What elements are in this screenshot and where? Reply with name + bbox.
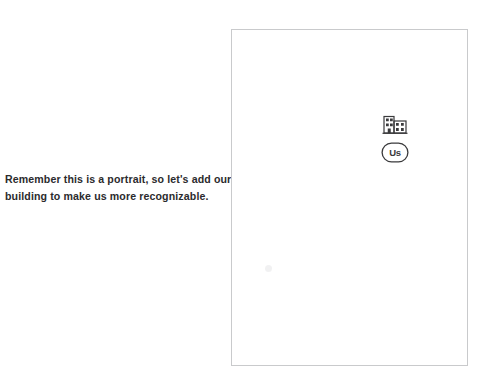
screenshot-canvas: Remember this is a portrait, so let's ad…: [0, 0, 490, 392]
building-icon: [382, 113, 408, 135]
logo-group: Us: [380, 113, 410, 163]
badge-label: Us: [381, 142, 409, 163]
caption-line-2: building to make us more recognizable.: [5, 188, 220, 205]
portrait-page-frame: Us: [231, 29, 468, 366]
us-badge: Us: [381, 142, 409, 163]
paper-artifact: [265, 265, 272, 272]
caption-line-1: Remember this is a portrait, so let's ad…: [5, 171, 220, 188]
caption-text: Remember this is a portrait, so let's ad…: [5, 171, 220, 204]
